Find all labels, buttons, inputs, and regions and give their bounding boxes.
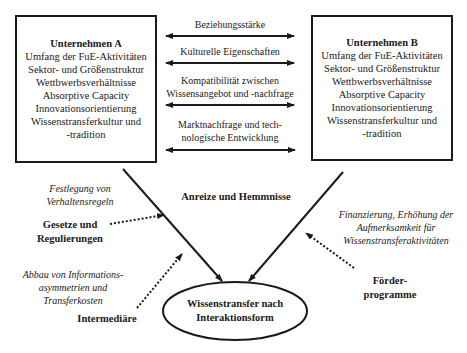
company-a-attr: Wettbwerbsverhältnisse xyxy=(36,76,136,89)
laws-label-text: Gesetze und xyxy=(30,218,110,232)
relation-label-1: Beziehungsstärke xyxy=(160,18,300,31)
company-b-attr: Wettbwerbsverhältnisse xyxy=(332,75,432,88)
outcome-text: Wissenstransfer nach xyxy=(163,297,307,311)
arrow-b-to-outcome xyxy=(249,172,343,281)
relation-text: Beziehungsstärke xyxy=(160,18,300,31)
funding-effect-text: Finanzierung, Erhöhung der xyxy=(330,208,462,221)
laws-effect-text: Verhaltensregeln xyxy=(30,195,130,208)
company-a-box: Unternehmen A Umfang der FuE-Aktivitäten… xyxy=(15,15,157,163)
relation-label-3: Kompatibilität zwischen Wissensangebot u… xyxy=(160,74,300,100)
intermediaries-effect-text: Transferkosten xyxy=(18,294,128,307)
incentives-label: Anreize und Hemmnisse xyxy=(176,190,296,204)
company-b-attr: Absorptive Capacity xyxy=(339,88,426,101)
relation-label-4: Marktnachfrage und tech- nologische Entw… xyxy=(160,118,300,144)
funding-effect: Finanzierung, Erhöhung der Aufmerksamkei… xyxy=(330,208,462,247)
intermediaries-effect-text: Abbau von Informations- xyxy=(18,268,128,281)
company-a-attr: Innovationsorientierung xyxy=(36,102,137,115)
laws-effect: Festlegung von Verhaltensregeln xyxy=(30,182,130,208)
company-b-attr: Wissenstransferkultur und xyxy=(327,114,437,127)
outcome-text: Interaktionsform xyxy=(163,311,307,325)
company-a-attr: Sektor- und Größenstruktur xyxy=(28,63,144,76)
company-a-attr: Wissenstransferkultur und xyxy=(31,115,141,128)
relation-text: nologische Entwicklung xyxy=(160,131,300,144)
intermediaries-effect: Abbau von Informations- asymmetrien und … xyxy=(18,268,128,307)
intermediaries-effect-text: asymmetrien und xyxy=(18,281,128,294)
funding-label: Förder- programme xyxy=(355,274,425,302)
intermediaries-label: Intermediäre xyxy=(72,312,142,326)
company-a-attr: Absorptive Capacity xyxy=(43,89,130,102)
funding-label-text: Förder- xyxy=(355,274,425,288)
laws-label: Gesetze und Regulierungen xyxy=(30,218,110,246)
relation-label-2: Kulturelle Eigenschaften xyxy=(160,45,300,58)
funding-effect-text: Aufmerksamkeit für xyxy=(330,221,462,234)
laws-effect-text: Festlegung von xyxy=(30,182,130,195)
company-b-attr: Innovationsorientierung xyxy=(332,101,433,114)
funding-effect-text: Wissenstransferaktivitäten xyxy=(330,234,462,247)
company-a-attr: Umfang der FuE-Aktivitäten xyxy=(25,50,146,63)
relation-text: Kompatibilität zwischen xyxy=(160,74,300,87)
company-a-attr: -tradition xyxy=(66,128,105,141)
company-b-title: Unternehmen B xyxy=(346,36,417,49)
relation-text: Kulturelle Eigenschaften xyxy=(160,45,300,58)
company-b-box: Unternehmen B Umfang der FuE-Aktivitäten… xyxy=(311,15,453,161)
company-b-attr: Sektor- und Größenstruktur xyxy=(324,62,440,75)
company-a-title: Unternehmen A xyxy=(50,37,121,50)
company-b-attr: Umfang der FuE-Aktivitäten xyxy=(321,49,442,62)
laws-label-text: Regulierungen xyxy=(30,232,110,246)
outcome-label: Wissenstransfer nach Interaktionsform xyxy=(163,297,307,325)
dotted-arrow-laws xyxy=(110,215,164,224)
relation-text: Marktnachfrage und tech- xyxy=(160,118,300,131)
relation-text: Wissensangebot und -nachfrage xyxy=(160,87,300,100)
funding-label-text: programme xyxy=(355,288,425,302)
company-b-attr: -tradition xyxy=(362,127,401,140)
